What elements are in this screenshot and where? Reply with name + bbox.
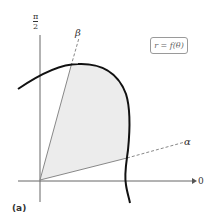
beta-ray-extension [71,38,79,66]
shaded-region [40,65,129,180]
pi-over-2-label: π 2 [33,12,38,31]
alpha-ray-extension [127,142,185,158]
pi-numerator: π [33,12,38,22]
zero-axis-label: 0 [198,176,204,186]
figure-caption: (a) [12,203,26,213]
equation-label-box: r = f(θ) [150,37,188,54]
pi-denominator: 2 [33,22,38,31]
beta-label: β [75,27,81,38]
polar-area-diagram [0,0,207,221]
alpha-label: α [184,136,191,147]
axis-arrow-icon [192,178,197,184]
